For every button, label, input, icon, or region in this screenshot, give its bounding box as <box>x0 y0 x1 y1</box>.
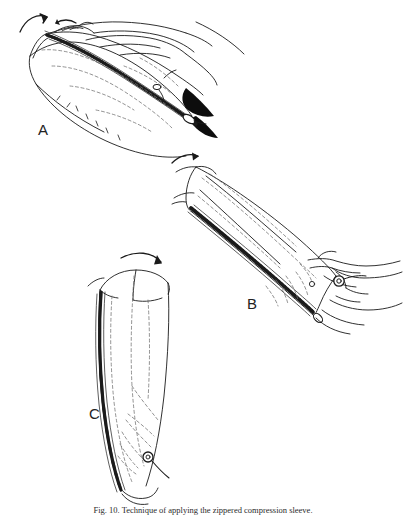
panel-label-c: C <box>89 406 100 421</box>
figure-illustration <box>0 0 406 517</box>
panel-b-eyelet <box>309 281 314 286</box>
figure-caption-number: Fig. 10. <box>93 505 119 515</box>
figure-caption: Fig. 10. Technique of applying the zippe… <box>0 505 406 516</box>
panel-label-b: B <box>247 296 258 311</box>
panel-label-a: A <box>38 122 49 137</box>
figure-caption-text: Technique of applying the zippered compr… <box>122 505 313 515</box>
figure-page: A B C Fig. 10. Technique of applying the… <box>0 0 406 517</box>
